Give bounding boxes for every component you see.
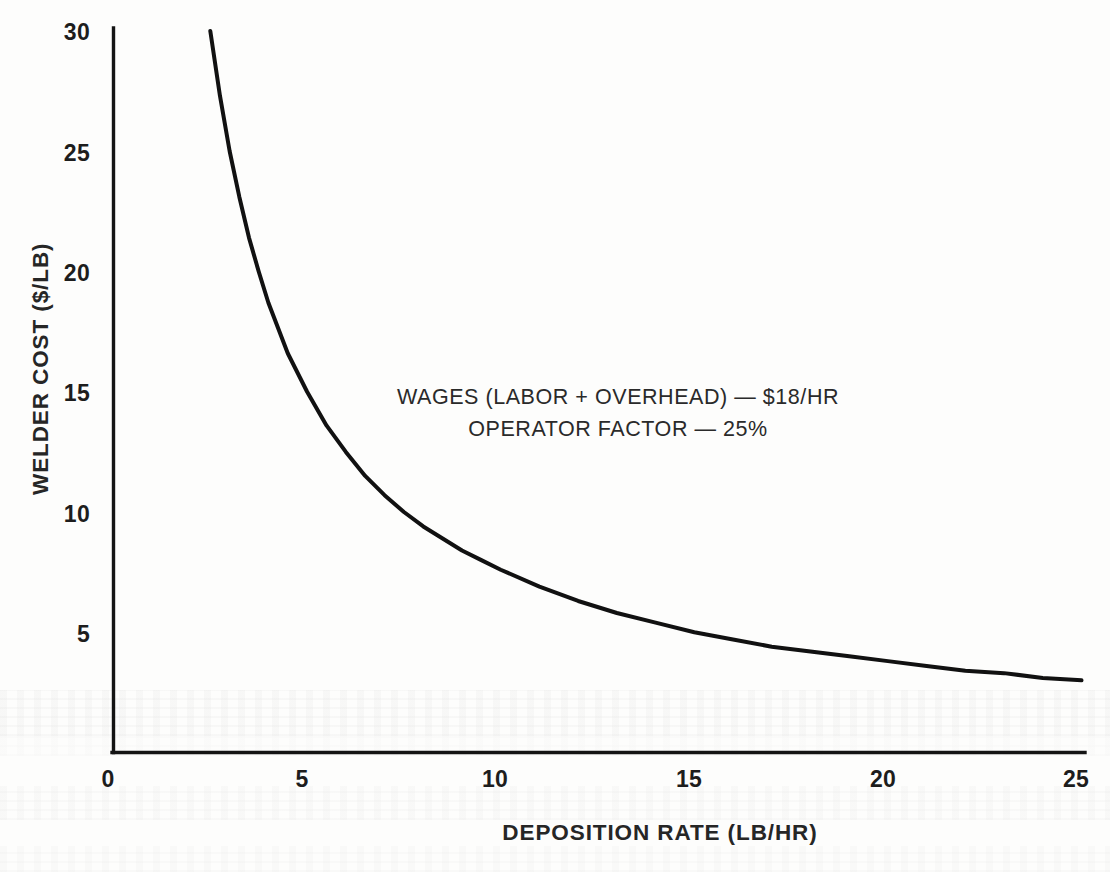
cost-curve: [210, 31, 1081, 680]
y-tick-label-25: 25: [28, 140, 90, 167]
y-tick-label-5: 5: [28, 621, 90, 648]
x-axis-title: DEPOSITION RATE (LB/HR): [360, 820, 960, 846]
y-tick-label-10: 10: [28, 501, 90, 528]
x-tick-label-20: 20: [853, 766, 913, 793]
x-tick-label-5: 5: [272, 766, 332, 793]
y-axis-title: WELDER COST ($/LB): [28, 243, 54, 495]
x-tick-label-15: 15: [659, 766, 719, 793]
y-tick-label-30: 30: [28, 19, 90, 46]
annotation-wages: WAGES (LABOR + OVERHEAD) — $18/HR: [397, 385, 839, 410]
annotation-operator-factor: OPERATOR FACTOR — 25%: [468, 417, 767, 442]
x-tick-label-0: 0: [78, 766, 138, 793]
x-tick-label-10: 10: [465, 766, 525, 793]
x-tick-label-25: 25: [1046, 766, 1106, 793]
chart-figure: 30 25 20 15 10 5 0 5 10 15 20 25 WELDER …: [0, 0, 1110, 872]
